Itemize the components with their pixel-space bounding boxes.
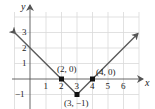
svg-text:3: 3	[22, 27, 27, 37]
point-4-0	[90, 77, 95, 82]
svg-text:3: 3	[75, 81, 80, 91]
svg-text:6: 6	[121, 81, 126, 91]
svg-text:1: 1	[44, 81, 49, 91]
svg-text:4: 4	[90, 81, 95, 91]
svg-text:−1: −1	[15, 89, 25, 99]
svg-text:1: 1	[22, 58, 27, 68]
svg-text:5: 5	[106, 81, 111, 91]
svg-text:2: 2	[59, 81, 64, 91]
y-tick-labels: 3 2 1 −1	[15, 27, 27, 99]
graph: x y 1 2 3 4 5 6 3 2 1 −1 (2, 0) (4, 0) (…	[0, 0, 155, 109]
point-2-0	[59, 77, 64, 82]
y-axis-label: y	[20, 1, 26, 12]
point-3-neg1	[75, 92, 80, 97]
point-label-3-neg1: (3, −1)	[64, 98, 89, 108]
point-label-2-0: (2, 0)	[57, 64, 77, 74]
point-label-4-0: (4, 0)	[96, 67, 116, 77]
x-axis-label: x	[144, 77, 150, 88]
